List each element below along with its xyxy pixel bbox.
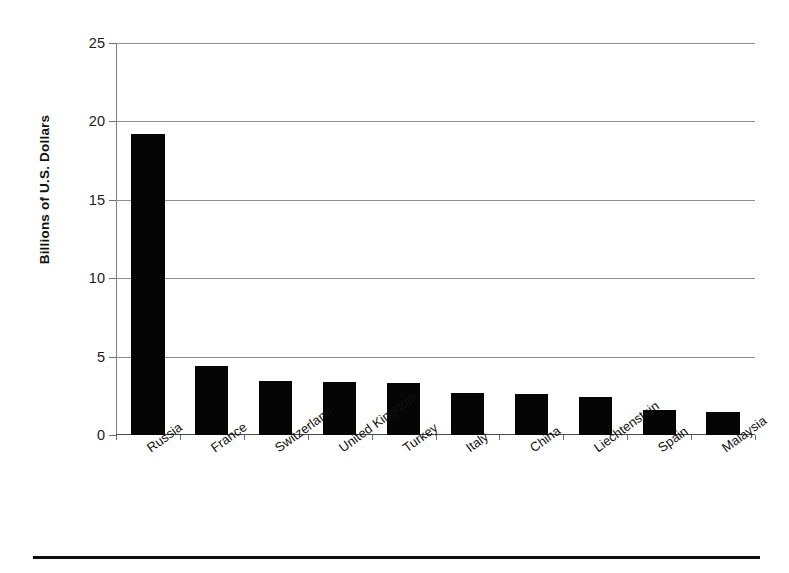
gridline (116, 200, 755, 201)
x-tick-mark (116, 435, 117, 440)
x-tick-label-group: RussiaFranceSwitzerlandUnited KingdomTur… (116, 443, 755, 538)
bar (579, 397, 612, 435)
y-tick-label: 0 (97, 428, 105, 443)
x-tick-mark (563, 435, 564, 440)
x-tick-mark (436, 435, 437, 440)
gridline (116, 357, 755, 358)
plot-area: 0510152025 (116, 43, 755, 435)
y-tick-label: 5 (97, 349, 105, 364)
y-tick-mark (109, 435, 116, 436)
footer-rule (33, 556, 760, 559)
gridline (116, 121, 755, 122)
gridline (116, 43, 755, 44)
bar (259, 381, 292, 435)
y-tick-mark (109, 200, 116, 201)
bar (195, 366, 228, 435)
x-tick-mark (372, 435, 373, 440)
x-tick-mark (755, 435, 756, 440)
x-tick-mark (244, 435, 245, 440)
y-tick-mark (109, 278, 116, 279)
y-tick-mark (109, 43, 116, 44)
y-tick-mark (109, 357, 116, 358)
x-tick-mark (499, 435, 500, 440)
y-tick-mark (109, 121, 116, 122)
y-tick-label: 15 (89, 193, 105, 208)
y-axis-title: Billions of U.S. Dollars (37, 60, 52, 320)
x-tick-mark (180, 435, 181, 440)
y-tick-label: 25 (89, 36, 105, 51)
x-tick-mark (308, 435, 309, 440)
bar (515, 394, 548, 435)
bar (131, 134, 164, 435)
x-tick-mark (627, 435, 628, 440)
gridline (116, 278, 755, 279)
bar (451, 393, 484, 435)
bar-chart-figure: Billions of U.S. Dollars 0510152025 Russ… (0, 0, 789, 573)
x-tick-mark (691, 435, 692, 440)
y-axis-line (116, 43, 117, 435)
y-tick-label: 20 (89, 114, 105, 129)
y-tick-label: 10 (89, 271, 105, 286)
